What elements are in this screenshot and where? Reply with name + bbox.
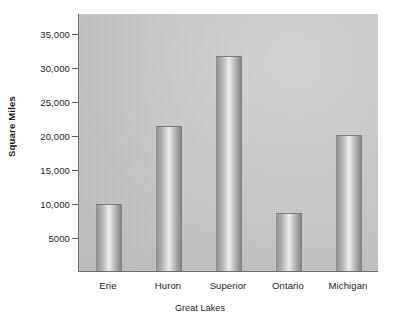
bar-ontario bbox=[276, 213, 302, 271]
y-tick-mark bbox=[72, 34, 79, 35]
y-tick-label: 5000 bbox=[48, 233, 70, 244]
x-tick-label-superior: Superior bbox=[210, 280, 247, 291]
y-tick-label: 20,000 bbox=[40, 131, 70, 142]
y-tick-mark bbox=[72, 170, 79, 171]
x-tick-label-michigan: Michigan bbox=[329, 280, 368, 291]
y-tick-mark bbox=[72, 68, 79, 69]
y-tick-mark bbox=[72, 238, 79, 239]
y-tick-label: 30,000 bbox=[40, 63, 70, 74]
y-axis-title: Square Miles bbox=[6, 96, 20, 157]
bar-huron bbox=[156, 126, 182, 271]
y-tick-label: 25,000 bbox=[40, 97, 70, 108]
x-axis-title: Great Lakes bbox=[0, 303, 400, 313]
y-tick-mark bbox=[72, 136, 79, 137]
y-tick-label: 15,000 bbox=[40, 165, 70, 176]
y-tick-label: 10,000 bbox=[40, 199, 70, 210]
y-tick-mark bbox=[72, 204, 79, 205]
plot-area bbox=[78, 14, 378, 272]
x-tick-label-ontario: Ontario bbox=[272, 280, 304, 291]
bar-chart-figure: Square Miles 500010,00015,00020,00025,00… bbox=[0, 0, 400, 323]
x-tick-label-erie: Erie bbox=[99, 280, 116, 291]
bar-michigan bbox=[336, 135, 362, 271]
bar-erie bbox=[96, 204, 122, 271]
y-tick-label: 35,000 bbox=[40, 29, 70, 40]
x-tick-label-huron: Huron bbox=[155, 280, 181, 291]
bar-superior bbox=[216, 56, 242, 271]
y-tick-mark bbox=[72, 102, 79, 103]
